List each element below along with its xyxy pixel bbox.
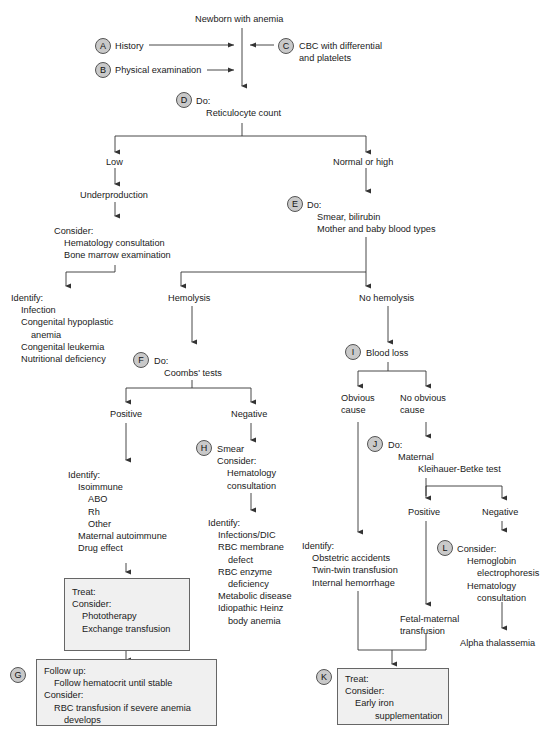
treat-heading: Treat: [345, 673, 442, 685]
badge-d: D [176, 92, 192, 108]
consider-item: Hematology [457, 580, 539, 592]
step-h-text: Smear Consider: Hematology consultation [217, 443, 276, 492]
treat-item: Phototherapy [72, 610, 170, 622]
consider-heading: Consider: [44, 689, 191, 701]
no-hemolysis-label: No hemolysis [359, 292, 414, 304]
hemolysis-label: Hemolysis [168, 292, 210, 304]
no-obvious-line-2: cause [400, 404, 446, 416]
identify-item: ABO [68, 493, 167, 505]
badge-i: I [345, 344, 361, 360]
badge-k: K [316, 669, 332, 685]
treat-box-hemolysis: Treat: Consider: Phototherapy Exchange t… [64, 578, 190, 651]
positive-identify-block: Identify: Isoimmune ABO Rh Other Materna… [68, 469, 167, 554]
identify-item: Infections/DIC [208, 529, 292, 541]
obvious-line-1: Obvious [341, 392, 375, 404]
consider-item: Hemoglobin [457, 555, 539, 567]
identify-heading: Identify: [68, 469, 167, 481]
step-e-item: Smear, bilirubin [307, 211, 436, 223]
cbc-label: CBC with differential and platelets [299, 40, 382, 64]
follow-up-box: Follow up: Follow hematocrit until stabl… [36, 659, 217, 726]
fetal-maternal-label: Fetal-maternal transfusion [400, 613, 459, 637]
step-j-text: Do: Maternal Kleihauer-Betke test [388, 439, 501, 476]
step-e-text: Do: Smear, bilirubin Mother and baby blo… [307, 199, 436, 236]
blood-loss-label: Blood loss [366, 347, 408, 359]
low-identify-block: Identify: Infection Congenital hypoplast… [11, 292, 113, 365]
consider-heading: Consider: [345, 685, 442, 697]
badge-h: H [196, 440, 212, 456]
no-obvious-line-1: No obvious [400, 392, 446, 404]
coombs-positive-label: Positive [110, 408, 142, 420]
anemia-flowchart: Newborn with anemia A History B Physical… [0, 0, 556, 738]
reticulocyte-count: Reticulocyte count [196, 107, 281, 119]
identify-item: Congenital leukemia [11, 341, 113, 353]
fetal-maternal-line-1: Fetal-maternal [400, 613, 459, 625]
consider-item: Hematology consultation [54, 237, 171, 249]
treat-box-text: Treat: Consider: Phototherapy Exchange t… [72, 586, 170, 635]
underproduction-label: Underproduction [80, 189, 148, 201]
step-f-text: Do: Coombs' tests [154, 355, 222, 379]
badge-c: C [278, 38, 294, 54]
treat-item: supplementation [345, 710, 442, 722]
consider-item: electrophoresis [457, 567, 539, 579]
identify-item: Drug effect [68, 542, 167, 554]
identify-item: Metabolic disease [208, 590, 292, 602]
badge-b: B [95, 62, 111, 78]
identify-item: RBC enzyme [208, 566, 292, 578]
identify-item: Isoimmune [68, 481, 167, 493]
identify-heading: Identify: [208, 517, 292, 529]
badge-g: G [10, 667, 26, 683]
negative-identify-block: Identify: Infections/DIC RBC membrane de… [208, 517, 292, 627]
fetal-maternal-line-2: transfusion [400, 625, 459, 637]
obvious-identify-block: Identify: Obstetric accidents Twin-twin … [302, 540, 398, 589]
diagram-title: Newborn with anemia [195, 13, 283, 25]
identify-item: Maternal autoimmune [68, 530, 167, 542]
badge-f: F [133, 352, 149, 368]
identify-item: Internal hemorrhage [302, 577, 398, 589]
follow-up-heading: Follow up: [44, 665, 191, 677]
identify-item: Idiopathic Heinz [208, 602, 292, 614]
identify-item: deficiency [208, 578, 292, 590]
identify-item: RBC membrane [208, 541, 292, 553]
obvious-line-2: cause [341, 404, 375, 416]
identify-item: Obstetric accidents [302, 552, 398, 564]
step-j-item: Maternal [388, 451, 501, 463]
consider-heading: Consider: [72, 598, 170, 610]
kb-positive-label: Positive [408, 506, 440, 518]
treat-item: Exchange transfusion [72, 623, 170, 635]
smear-label: Smear [217, 443, 276, 455]
treat-k-text: Treat: Consider: Early iron supplementat… [345, 673, 442, 722]
identify-item: defect [208, 554, 292, 566]
consider-item: Hematology [217, 467, 276, 479]
identify-item: Rh [68, 506, 167, 518]
consider-item: consultation [217, 480, 276, 492]
step-j-heading: Do: [388, 439, 501, 451]
obvious-cause-label: Obvious cause [341, 392, 375, 416]
cbc-line-2: and platelets [299, 52, 382, 64]
identify-heading: Identify: [11, 292, 113, 304]
identify-item: Congenital hypoplastic [11, 316, 113, 328]
cbc-line-1: CBC with differential [299, 40, 382, 52]
identify-item: Twin-twin transfusion [302, 564, 398, 576]
identify-item: Nutritional deficiency [11, 353, 113, 365]
consider-heading: Consider: [54, 225, 171, 237]
kleihauer-betke-test: Kleihauer-Betke test [388, 463, 501, 475]
physical-exam-label: Physical examination [115, 64, 201, 76]
alpha-thalassemia-label: Alpha thalassemia [460, 637, 535, 649]
low-label: Low [106, 156, 123, 168]
consider-item: Bone marrow examination [54, 249, 171, 261]
normal-high-label: Normal or high [333, 156, 393, 168]
consider-heading: Consider: [217, 455, 276, 467]
step-e-item: Mother and baby blood types [307, 223, 436, 235]
step-e-heading: Do: [307, 199, 436, 211]
no-obvious-cause-label: No obvious cause [400, 392, 446, 416]
treat-heading: Treat: [72, 586, 170, 598]
badge-l: L [437, 540, 453, 556]
badge-j: J [367, 436, 383, 452]
follow-up-text: Follow up: Follow hematocrit until stabl… [44, 665, 191, 726]
consider-heading: Consider: [457, 543, 539, 555]
identify-heading: Identify: [302, 540, 398, 552]
follow-up-item: develops [44, 714, 191, 726]
low-consider-block: Consider: Hematology consultation Bone m… [54, 225, 171, 262]
follow-up-item: Follow hematocrit until stable [44, 677, 191, 689]
badge-e: E [287, 196, 303, 212]
